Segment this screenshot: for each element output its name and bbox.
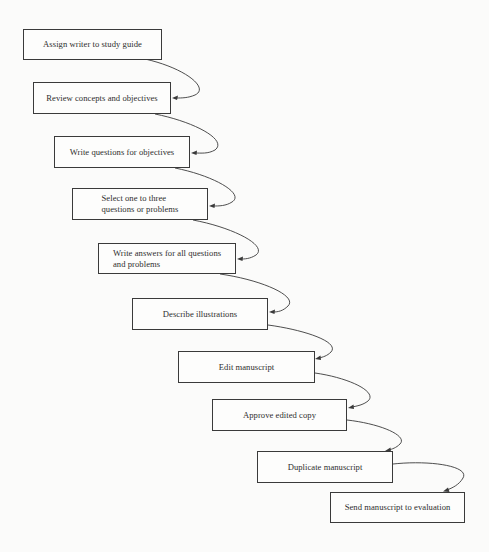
step-label: Assign writer to study guide (43, 39, 142, 50)
step-write-answers: Write answers for all questions and prob… (98, 243, 236, 274)
step-duplicate-manuscript: Duplicate manuscript (257, 451, 393, 483)
step-label: Approve edited copy (243, 410, 316, 421)
step-send-to-evaluation: Send manuscript to evaluation (330, 492, 465, 523)
step-label: Duplicate manuscript (288, 462, 363, 473)
step-assign-writer: Assign writer to study guide (23, 29, 162, 60)
step-label: Edit manuscript (219, 362, 274, 373)
flowchart-canvas: Assign writer to study guide Review conc… (0, 0, 489, 552)
step-label: Describe illustrations (163, 309, 237, 320)
step-label: Select one to three questions or problem… (102, 193, 179, 215)
step-select-questions: Select one to three questions or problem… (72, 188, 208, 220)
step-label: Write questions for objectives (70, 147, 175, 158)
step-label: Send manuscript to evaluation (345, 502, 451, 513)
step-edit-manuscript: Edit manuscript (178, 351, 315, 383)
step-label: Write answers for all questions and prob… (113, 248, 221, 270)
step-describe-illustrations: Describe illustrations (132, 298, 268, 330)
step-write-questions: Write questions for objectives (54, 136, 190, 168)
step-label: Review concepts and objectives (46, 93, 158, 104)
connector-arrow-9-10 (393, 463, 464, 492)
step-approve-copy: Approve edited copy (212, 399, 347, 431)
connector-arrow-8-9 (347, 420, 401, 452)
step-review-concepts: Review concepts and objectives (33, 82, 171, 114)
